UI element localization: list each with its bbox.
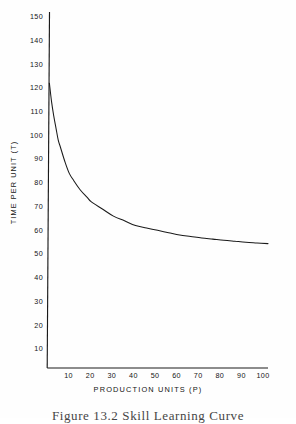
y-tick-label: 50 xyxy=(34,249,43,258)
y-axis-tick-labels: 150 140 130 120 110 100 90 80 70 60 50 4… xyxy=(18,12,43,368)
y-tick-label: 150 xyxy=(30,12,43,21)
x-tick-label: 100 xyxy=(256,371,269,380)
x-tick-label: 30 xyxy=(107,371,116,380)
y-tick-label: 40 xyxy=(34,273,43,282)
x-tick-label: 70 xyxy=(194,371,203,380)
y-tick-label: 70 xyxy=(34,201,43,210)
x-tick-label: 90 xyxy=(237,371,246,380)
x-tick-label: 50 xyxy=(151,371,160,380)
x-axis-title: PRODUCTION UNITS (P) xyxy=(0,385,296,394)
y-tick-label: 90 xyxy=(34,154,43,163)
y-tick-label: 140 xyxy=(30,35,43,44)
y-tick-label: 20 xyxy=(34,320,43,329)
y-tick-label: 110 xyxy=(30,106,43,115)
x-axis-tick-labels: 10 20 30 40 50 60 70 80 90 100 xyxy=(47,371,263,383)
x-tick-label: 40 xyxy=(129,371,138,380)
y-tick-label: 80 xyxy=(34,178,43,187)
y-tick-label: 130 xyxy=(30,59,43,68)
data-series-line xyxy=(49,83,268,243)
y-axis-title: TIME PER UNIT (T) xyxy=(9,118,18,248)
x-tick-label: 20 xyxy=(86,371,95,380)
y-tick-label: 100 xyxy=(30,130,43,139)
x-tick-label: 10 xyxy=(64,371,73,380)
y-tick-label: 60 xyxy=(34,225,43,234)
y-tick-label: 10 xyxy=(34,344,43,353)
figure-caption: Figure 13.2 Skill Learning Curve xyxy=(0,408,296,424)
y-axis-line xyxy=(47,12,49,368)
y-tick-label: 30 xyxy=(34,296,43,305)
x-tick-label: 80 xyxy=(215,371,224,380)
y-tick-label: 120 xyxy=(30,83,43,92)
x-tick-label: 60 xyxy=(172,371,181,380)
